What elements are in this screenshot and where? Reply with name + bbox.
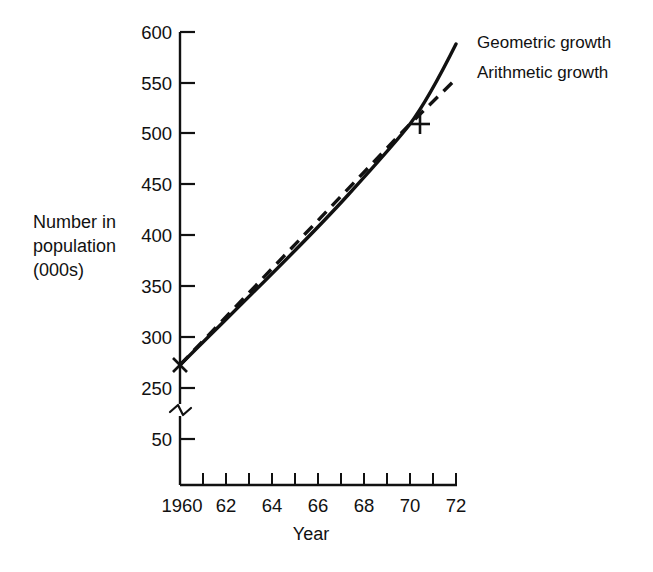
legend: Geometric growth Arithmetic growth bbox=[477, 33, 611, 82]
y-tick-label-400: 400 bbox=[141, 225, 172, 246]
y-tick-label-50: 50 bbox=[151, 429, 172, 450]
population-growth-chart: 600 550 500 450 400 350 300 250 50 bbox=[0, 0, 653, 572]
y-axis: 600 550 500 450 400 350 300 250 50 bbox=[141, 22, 195, 485]
y-tick-label-450: 450 bbox=[141, 174, 172, 195]
x-tick-label-70: 70 bbox=[400, 495, 421, 516]
x-tick-label-66: 66 bbox=[308, 495, 329, 516]
y-tick-label-600: 600 bbox=[141, 22, 172, 43]
y-tick-label-250: 250 bbox=[141, 378, 172, 399]
y-axis-title: Number in population (000s) bbox=[33, 212, 116, 280]
chart-canvas: 600 550 500 450 400 350 300 250 50 bbox=[0, 0, 653, 572]
y-tick-label-300: 300 bbox=[141, 327, 172, 348]
y-tick-label-350: 350 bbox=[141, 276, 172, 297]
legend-label-arithmetic: Arithmetic growth bbox=[477, 63, 608, 82]
x-axis: 1960 62 64 66 68 70 72 Year bbox=[161, 473, 466, 544]
x-tick-label-68: 68 bbox=[354, 495, 375, 516]
y-tick-label-550: 550 bbox=[141, 73, 172, 94]
legend-label-geometric: Geometric growth bbox=[477, 33, 611, 52]
x-axis-title: Year bbox=[293, 524, 329, 544]
y-axis-title-line3: (000s) bbox=[33, 260, 84, 280]
y-axis-title-line2: population bbox=[33, 236, 116, 256]
x-tick-label-64: 64 bbox=[262, 495, 283, 516]
x-tick-label-62: 62 bbox=[216, 495, 237, 516]
y-tick-label-500: 500 bbox=[141, 123, 172, 144]
y-axis-break-icon bbox=[170, 405, 191, 415]
series-geometric-growth bbox=[180, 44, 456, 365]
x-tick-label-1960: 1960 bbox=[161, 495, 202, 516]
y-axis-title-line1: Number in bbox=[33, 212, 116, 232]
x-tick-label-72: 72 bbox=[446, 495, 467, 516]
